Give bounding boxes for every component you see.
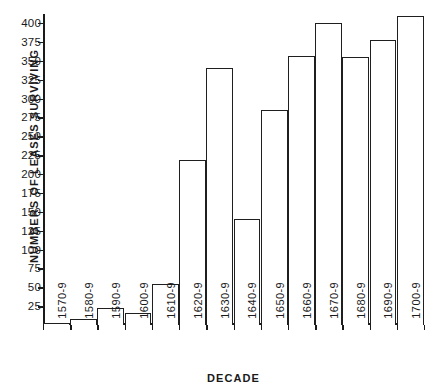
x-axis-tick-label: 1590-9 xyxy=(110,282,122,334)
x-axis-tick xyxy=(97,325,98,330)
x-axis-tick xyxy=(234,325,235,330)
x-axis-tick xyxy=(70,325,71,330)
x-axis-tick-label: 1600-9 xyxy=(138,282,150,334)
x-axis-tick xyxy=(315,325,316,330)
y-axis-tick-label: 50 xyxy=(28,281,41,293)
y-axis-tick-label: 150 xyxy=(21,206,41,218)
x-axis-tick-label: 1700-9 xyxy=(410,282,422,334)
x-axis-tick xyxy=(206,325,207,330)
x-axis-tick-label: 1690-9 xyxy=(382,282,394,334)
bar-chart: NUMBERS OF LEASES SURVIVING 255075100125… xyxy=(0,0,428,384)
x-axis-tick xyxy=(125,325,126,330)
y-axis-tick-label: 25 xyxy=(28,300,41,312)
bar xyxy=(315,23,342,325)
x-axis-tick xyxy=(43,325,44,330)
y-axis-tick-label: 175 xyxy=(21,187,41,199)
x-axis-tick-label: 1620-9 xyxy=(192,282,204,334)
y-axis-tick-label: 100 xyxy=(21,244,41,256)
y-axis-tick-label: 200 xyxy=(21,168,41,180)
x-axis-tick xyxy=(342,325,343,330)
x-axis-tick xyxy=(179,325,180,330)
x-axis-tick xyxy=(397,325,398,330)
x-axis-tick-label: 1680-9 xyxy=(355,282,367,334)
x-axis-tick xyxy=(424,325,425,330)
x-axis-tick-label: 1670-9 xyxy=(328,282,340,334)
y-axis-tick-label: 225 xyxy=(21,149,41,161)
x-axis-tick-label: 1650-9 xyxy=(274,282,286,334)
x-axis-tick xyxy=(261,325,262,330)
y-axis-tick-label: 375 xyxy=(21,36,41,48)
y-axis-tick-label: 400 xyxy=(21,17,41,29)
x-axis-tick-label: 1630-9 xyxy=(219,282,231,334)
y-axis-tick-label: 325 xyxy=(21,74,41,86)
x-axis-tick xyxy=(370,325,371,330)
plot-area: 2550751001251501752002252502753003253503… xyxy=(43,14,424,325)
x-axis-tick-label: 1660-9 xyxy=(301,282,313,334)
x-axis-tick-label: 1610-9 xyxy=(165,282,177,334)
y-axis-line xyxy=(43,14,45,325)
x-axis-tick-label: 1640-9 xyxy=(246,282,258,334)
y-axis-tick-label: 250 xyxy=(21,130,41,142)
x-axis-title: DECADE xyxy=(43,372,424,384)
y-axis-tick-label: 75 xyxy=(28,262,41,274)
bar xyxy=(397,16,424,325)
y-axis-tick-label: 275 xyxy=(21,111,41,123)
y-axis-tick-label: 300 xyxy=(21,93,41,105)
x-axis-tick-label: 1570-9 xyxy=(56,282,68,334)
y-axis-tick-label: 350 xyxy=(21,55,41,67)
x-axis-tick xyxy=(152,325,153,330)
x-axis-tick-label: 1580-9 xyxy=(83,282,95,334)
x-axis-tick xyxy=(288,325,289,330)
y-axis-tick-label: 125 xyxy=(21,225,41,237)
